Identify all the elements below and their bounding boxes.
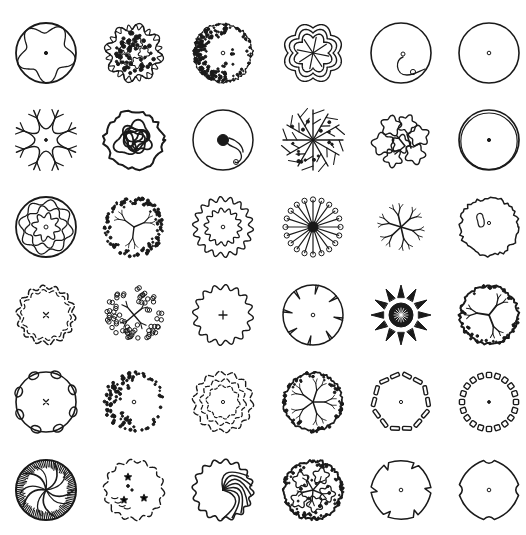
- tree-symbol-radial-branches: [277, 104, 349, 176]
- tree-symbol-scallop-swirl: [187, 454, 259, 526]
- tree-symbol-double-circle-icon: [453, 104, 525, 176]
- tree-symbol-cloud-cluster: [365, 104, 437, 176]
- tree-symbol-dot-crescent: [98, 366, 170, 438]
- tree-symbol-wavy-inner-icon: [10, 17, 82, 89]
- tree-symbol-stipple-leaves: [277, 366, 349, 438]
- tree-symbol-spokes-balls: [277, 191, 349, 263]
- tree-symbol-dense-leaves-icon: [277, 454, 349, 526]
- tree-symbol-arc-branches-icon: [10, 104, 82, 176]
- tree-symbol-double-circle: [453, 104, 525, 176]
- tree-symbol-arc-branches: [10, 104, 82, 176]
- tree-symbol-stipple-crescent: [187, 17, 259, 89]
- tree-symbol-stipple-crescent-icon: [187, 17, 259, 89]
- tree-symbol-bubble-branches-icon: [98, 279, 170, 351]
- tree-symbol-half-moons: [10, 366, 82, 438]
- tree-symbol-stipple-branches-icon: [98, 191, 170, 263]
- tree-symbol-maze-star: [277, 17, 349, 89]
- tree-symbol-flower-cluster-icon: [98, 17, 170, 89]
- tree-symbol-plain-circle: [453, 17, 525, 89]
- tree-symbol-circle-lobe-icon: [365, 17, 437, 89]
- tree-symbol-wavy-inner: [10, 17, 82, 89]
- tree-symbol-bubble-branches: [98, 279, 170, 351]
- tree-symbol-tangled-blobs: [98, 104, 170, 176]
- tree-symbol-maze-star-icon: [277, 17, 349, 89]
- tree-symbol-cloud-cluster-icon: [365, 104, 437, 176]
- tree-symbol-four-notch-icon: [453, 454, 525, 526]
- tree-symbol-four-notch: [453, 454, 525, 526]
- tree-symbol-notched-circle-icon: [277, 279, 349, 351]
- tree-symbol-tangled-blobs-icon: [98, 104, 170, 176]
- tree-symbol-dashed-scallop: [10, 279, 82, 351]
- tree-symbol-circle-lobe: [365, 17, 437, 89]
- tree-symbol-dense-leaves: [277, 454, 349, 526]
- tree-symbol-radial-branches-icon: [277, 104, 349, 176]
- tree-symbol-half-moons-icon: [10, 366, 82, 438]
- tree-symbol-leafy-branches-icon: [453, 279, 525, 351]
- tree-symbol-spokes-balls-icon: [277, 191, 349, 263]
- tree-symbol-dark-core-icon: [187, 104, 259, 176]
- tree-symbol-bare-branches: [365, 191, 437, 263]
- tree-symbol-dark-core: [187, 104, 259, 176]
- tree-symbol-broken-stars: [98, 454, 170, 526]
- tree-symbol-stipple-leaves-icon: [277, 366, 349, 438]
- tree-symbol-dashed-scallop-icon: [10, 279, 82, 351]
- tree-symbol-hatched-swirl-icon: [10, 454, 82, 526]
- tree-symbol-plain-circle-icon: [453, 17, 525, 89]
- tree-symbol-broken-stars-icon: [98, 454, 170, 526]
- tree-symbol-concentric-wavy-icon: [10, 191, 82, 263]
- tree-symbol-rough-outline-icon: [453, 191, 525, 263]
- tree-symbol-leafy-branches: [453, 279, 525, 351]
- tree-symbol-concentric-wavy: [10, 191, 82, 263]
- tree-symbol-gear-plus: [187, 279, 259, 351]
- tree-symbol-dot-crescent-icon: [98, 366, 170, 438]
- tree-symbol-double-gear-icon: [187, 191, 259, 263]
- tree-symbol-star-burst: [365, 279, 437, 351]
- tree-symbol-star-burst-icon: [365, 279, 437, 351]
- tree-symbol-dash-ring: [365, 366, 437, 438]
- tree-symbol-gear-plus-icon: [187, 279, 259, 351]
- tree-symbol-stipple-branches: [98, 191, 170, 263]
- tree-symbol-hook-notch-icon: [365, 454, 437, 526]
- tree-symbol-hatched-swirl: [10, 454, 82, 526]
- tree-symbol-dash-ring-icon: [365, 366, 437, 438]
- tree-symbol-bare-branches-icon: [365, 191, 437, 263]
- tree-symbol-double-gear: [187, 191, 259, 263]
- tree-symbol-hook-notch: [365, 454, 437, 526]
- tree-symbol-square-ring-icon: [453, 366, 525, 438]
- tree-symbol-double-dashed-icon: [187, 366, 259, 438]
- tree-symbol-scallop-swirl-icon: [187, 454, 259, 526]
- tree-symbol-square-ring: [453, 366, 525, 438]
- tree-symbol-double-dashed: [187, 366, 259, 438]
- tree-symbol-rough-outline: [453, 191, 525, 263]
- tree-symbol-notched-circle: [277, 279, 349, 351]
- tree-symbol-flower-cluster: [98, 17, 170, 89]
- tree-symbol-sheet: [0, 0, 526, 535]
